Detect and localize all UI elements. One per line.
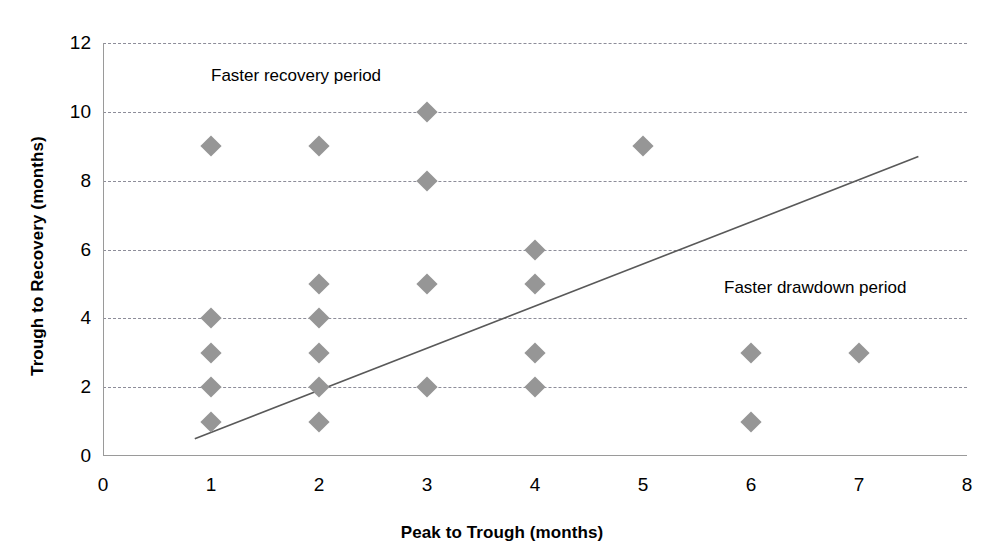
plot-area: Faster recovery periodFaster drawdown pe…: [103, 43, 967, 456]
y-tick-label: 12: [47, 32, 91, 54]
x-axis-title: Peak to Trough (months): [0, 523, 1004, 543]
x-tick-label: 4: [513, 474, 557, 496]
y-axis-title: Trough to Recovery (months): [28, 96, 48, 416]
chart-annotation: Faster recovery period: [211, 66, 381, 86]
y-tick-label: 8: [47, 170, 91, 192]
chart-annotation: Faster drawdown period: [724, 278, 906, 298]
x-tick-label: 2: [297, 474, 341, 496]
x-tick-label: 7: [837, 474, 881, 496]
x-tick-label: 5: [621, 474, 665, 496]
x-tick-label: 0: [81, 474, 125, 496]
y-tick-label: 0: [47, 445, 91, 467]
y-tick-label: 10: [47, 101, 91, 123]
y-tick-label: 6: [47, 239, 91, 261]
x-tick-label: 8: [945, 474, 989, 496]
y-tick-label: 2: [47, 376, 91, 398]
x-tick-label: 3: [405, 474, 449, 496]
scatter-chart: Trough to Recovery (months) Peak to Trou…: [0, 0, 1004, 560]
x-tick-label: 6: [729, 474, 773, 496]
y-tick-label: 4: [47, 307, 91, 329]
x-tick-label: 1: [189, 474, 233, 496]
